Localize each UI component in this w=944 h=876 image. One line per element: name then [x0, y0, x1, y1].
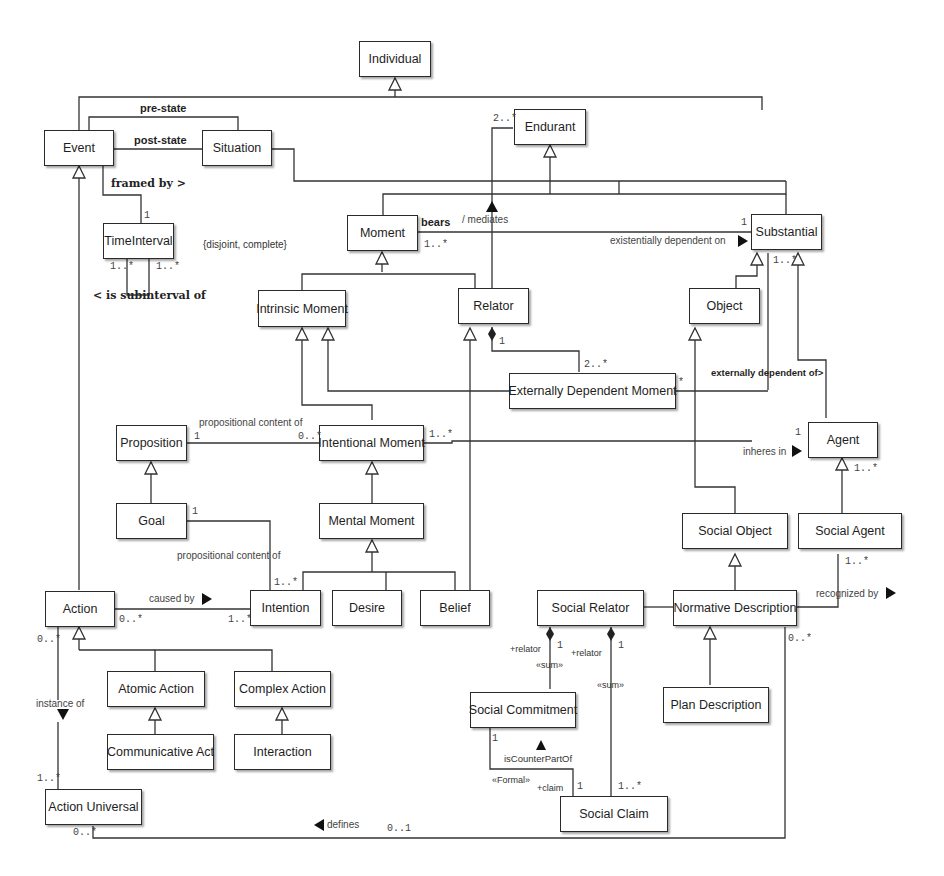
- class-desire[interactable]: Desire: [332, 590, 402, 626]
- mult-time-interval-top: 1: [144, 211, 150, 221]
- mult-social-commitment-1: 1: [492, 734, 498, 744]
- mult-social-relator-1: 1: [557, 641, 563, 651]
- class-plan-description[interactable]: Plan Description: [663, 687, 769, 723]
- is-counter-part-of-direction-icon: [536, 740, 546, 750]
- label-relator-role-2: +relator: [571, 649, 602, 658]
- label-mediates: / mediates: [462, 215, 508, 225]
- label-pre-state: pre-state: [140, 103, 186, 114]
- class-goal[interactable]: Goal: [116, 503, 187, 539]
- label-defines: defines: [327, 820, 359, 830]
- mult-time-interval-right: 1..*: [156, 262, 180, 272]
- class-time-interval[interactable]: TimeInterval: [103, 223, 174, 259]
- label-propositional-content-of-1: propositional content of: [199, 418, 302, 428]
- mult-normative-defines: 0..*: [788, 634, 812, 644]
- class-social-agent[interactable]: Social Agent: [798, 513, 902, 549]
- label-propositional-content-of-2: propositional content of: [177, 551, 280, 561]
- mult-time-interval-left: 1..*: [110, 262, 134, 272]
- label-inheres-in: inheres in: [743, 447, 786, 457]
- class-substantial[interactable]: Substantial: [751, 214, 822, 250]
- class-social-claim[interactable]: Social Claim: [560, 796, 668, 832]
- class-interaction[interactable]: Interaction: [234, 734, 331, 770]
- mult-proposition-pc: 1: [194, 432, 200, 442]
- mult-intention-pc: 1..*: [274, 578, 298, 588]
- mult-edm-right: *: [678, 378, 684, 388]
- class-mental-moment[interactable]: Mental Moment: [319, 503, 424, 539]
- mult-substantial-agent: 1..*: [773, 256, 797, 266]
- mult-goal-pc: 1: [192, 507, 198, 517]
- mult-intentional-pc: 0..*: [298, 432, 322, 442]
- mult-social-relator-2: 1: [618, 641, 624, 651]
- label-disjoint-complete: {disjoint, complete}: [203, 240, 287, 250]
- class-normative-description[interactable]: Normative Description: [673, 590, 797, 626]
- label-externally-dependent-of: externally dependent of>: [711, 368, 823, 378]
- label-is-counter-part-of: isCounterPartOf: [504, 754, 572, 764]
- class-externally-dependent-moment[interactable]: Externally Dependent Moment: [509, 373, 676, 409]
- class-social-commitment[interactable]: Social Commitment: [470, 692, 576, 728]
- class-intentional-moment[interactable]: Intentional Moment: [319, 425, 424, 461]
- label-post-state: post-state: [134, 135, 187, 146]
- class-communicative-act[interactable]: Communicative Act: [107, 734, 214, 770]
- class-action-universal[interactable]: Action Universal: [45, 789, 142, 825]
- label-is-subinterval-of: < is subinterval of: [93, 290, 206, 301]
- mult-defines-target: 0..1: [387, 824, 411, 834]
- class-agent[interactable]: Agent: [808, 422, 878, 458]
- class-belief[interactable]: Belief: [420, 590, 490, 626]
- recognized-by-direction-icon: [886, 587, 896, 599]
- label-recognized-by: recognized by: [816, 589, 878, 599]
- class-complex-action[interactable]: Complex Action: [234, 671, 331, 707]
- class-intrinsic-moment[interactable]: Intrinsic Moment: [258, 290, 346, 327]
- existentially-dependent-direction-icon: [738, 235, 748, 247]
- label-instance-of: instance of: [36, 699, 84, 709]
- label-bears: bears: [421, 217, 450, 228]
- class-intention[interactable]: Intention: [250, 590, 321, 626]
- uml-diagram: Individual Event Situation Endurant Time…: [0, 0, 944, 876]
- mult-intention-caused: 1..*: [228, 615, 252, 625]
- class-individual[interactable]: Individual: [359, 41, 431, 77]
- label-relator-role-1: +relator: [510, 645, 541, 654]
- label-existentially-dependent-on: existentially dependent on: [610, 236, 726, 246]
- class-endurant[interactable]: Endurant: [514, 109, 586, 145]
- mult-intentional-inheres: 1..*: [429, 430, 453, 440]
- label-caused-by: caused by: [149, 594, 195, 604]
- mult-social-claim-many: 1..*: [618, 782, 642, 792]
- class-social-object[interactable]: Social Object: [682, 513, 788, 549]
- class-moment[interactable]: Moment: [347, 215, 418, 251]
- mult-endurant-mediates: 2..*: [493, 114, 517, 124]
- mult-social-claim-1: 1: [577, 782, 583, 792]
- class-atomic-action[interactable]: Atomic Action: [107, 671, 205, 707]
- label-formal: «Formal»: [492, 776, 530, 785]
- class-object[interactable]: Object: [689, 288, 760, 324]
- class-relator[interactable]: Relator: [458, 288, 529, 324]
- mediates-direction-icon: [486, 201, 498, 212]
- class-social-relator[interactable]: Social Relator: [537, 590, 644, 626]
- class-event[interactable]: Event: [44, 130, 114, 166]
- inheres-in-direction-icon: [792, 445, 802, 457]
- instance-of-direction-icon: [57, 709, 69, 720]
- mult-moment-bears: 1..*: [424, 240, 448, 250]
- label-sum-2: «sum»: [597, 681, 624, 690]
- mult-relator-edm: 1: [499, 337, 505, 347]
- mult-action-instance: 0..*: [37, 635, 61, 645]
- label-claim-role: +claim: [537, 784, 563, 793]
- mult-edm-relator: 2..*: [584, 360, 608, 370]
- defines-direction-icon: [314, 819, 324, 831]
- mult-agent-social: 1..*: [854, 464, 878, 474]
- mult-action-universal-instance: 1..*: [37, 774, 61, 784]
- mult-substantial-bears: 1: [741, 218, 747, 228]
- mult-action-caused: 0..*: [119, 615, 143, 625]
- caused-by-direction-icon: [202, 593, 212, 605]
- label-framed-by: framed by >: [111, 178, 186, 189]
- mult-action-universal-defines: 0..*: [73, 828, 97, 838]
- class-situation[interactable]: Situation: [202, 130, 272, 166]
- mult-agent-inheres: 1: [795, 428, 801, 438]
- class-action[interactable]: Action: [45, 591, 115, 627]
- label-sum-1: «sum»: [536, 661, 563, 670]
- mult-social-agent-recognized: 1..*: [845, 557, 869, 567]
- class-proposition[interactable]: Proposition: [116, 425, 187, 461]
